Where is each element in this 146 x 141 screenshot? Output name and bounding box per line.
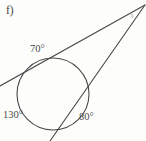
angle-label-left-arc: 130° (3, 110, 23, 121)
part-label: f) (6, 5, 14, 17)
angle-label-top-arc: 70° (30, 44, 45, 55)
angle-label-vertex-x: x (130, 12, 134, 20)
angle-label-right-arc: 80° (79, 112, 94, 123)
geometry-figure: f) 70° 130° 80° x (0, 0, 146, 141)
